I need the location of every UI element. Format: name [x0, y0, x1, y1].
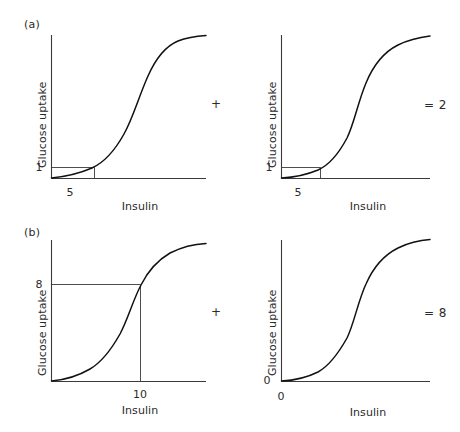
- dose-response-curve: [282, 36, 431, 178]
- panel-a-left: (a) Glucose uptake 1 5 Insulin: [0, 0, 230, 216]
- dose-response-curve: [52, 36, 207, 179]
- panel-b-left: (b) Glucose uptake 8 10 Insulin: [0, 216, 230, 432]
- plot-a-left: [0, 0, 230, 216]
- plus-operator-row-a: +: [211, 97, 221, 111]
- plot-b-right: [230, 216, 460, 432]
- plot-b-left: [0, 216, 230, 432]
- result-row-a: = 2: [424, 98, 447, 112]
- result-row-b: = 8: [424, 306, 447, 320]
- dose-response-curve: [282, 240, 431, 382]
- dose-response-curve: [52, 244, 207, 382]
- panel-b-right: Glucose uptake 0 0 Insulin: [230, 216, 460, 432]
- plus-operator-row-b: +: [211, 305, 221, 319]
- figure-container: (a) Glucose uptake 1 5 Insulin + Glucose…: [0, 0, 460, 432]
